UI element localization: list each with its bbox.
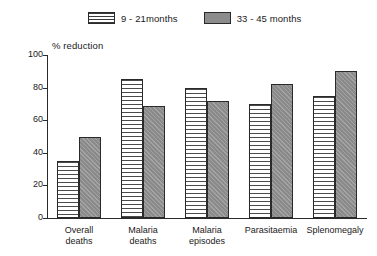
- category-label: Malariadeaths: [106, 225, 180, 247]
- category-label-line: Parasitaemia: [234, 225, 308, 236]
- category-label-line: Overall: [42, 225, 116, 236]
- y-tick-label: 60: [33, 114, 43, 125]
- legend-label-9-21-months: 9 - 21months: [121, 13, 178, 24]
- bar: [249, 104, 271, 218]
- bar: [57, 161, 79, 218]
- bar: [313, 96, 335, 218]
- category-label-line: Splenomegaly: [298, 225, 372, 236]
- bar: [335, 71, 357, 218]
- legend-swatch-solid-icon: [204, 12, 231, 24]
- bar: [185, 88, 207, 218]
- bar-group: [175, 55, 239, 218]
- category-label: Overalldeaths: [42, 225, 116, 247]
- bar: [143, 106, 165, 218]
- chart-legend: 9 - 21months 33 - 45 months: [88, 12, 301, 24]
- legend-swatch-hatched-icon: [88, 12, 115, 24]
- category-label: Splenomegaly: [298, 225, 372, 236]
- y-tick-label: 0: [38, 212, 43, 223]
- bar: [79, 137, 101, 219]
- y-tick-mark: [43, 218, 48, 219]
- category-label-line: Malaria: [106, 225, 180, 236]
- bar-group: [111, 55, 175, 218]
- bar-group: [303, 55, 367, 218]
- bar-group: [239, 55, 303, 218]
- category-label: Parasitaemia: [234, 225, 308, 236]
- bar-chart-figure: 9 - 21months 33 - 45 months % reduction …: [0, 0, 377, 256]
- bar: [207, 101, 229, 218]
- category-label-line: episodes: [170, 236, 244, 247]
- bar-group: [47, 55, 111, 218]
- x-axis-line: [47, 218, 367, 219]
- y-tick-label: 40: [33, 147, 43, 158]
- y-axis-title: % reduction: [52, 40, 103, 51]
- y-tick-label: 20: [33, 179, 43, 190]
- legend-entry-33-45-months: 33 - 45 months: [204, 12, 302, 24]
- category-label-line: deaths: [106, 236, 180, 247]
- category-label: Malariaepisodes: [170, 225, 244, 247]
- bar: [121, 79, 143, 218]
- plot-area: 020406080100 OveralldeathsMalariadeathsM…: [47, 55, 367, 218]
- category-label-line: deaths: [42, 236, 116, 247]
- legend-label-33-45-months: 33 - 45 months: [237, 13, 302, 24]
- legend-entry-9-21-months: 9 - 21months: [88, 12, 178, 24]
- y-tick-label: 80: [33, 82, 43, 93]
- y-tick-label: 100: [28, 49, 43, 60]
- bar: [271, 84, 293, 218]
- category-label-line: Malaria: [170, 225, 244, 236]
